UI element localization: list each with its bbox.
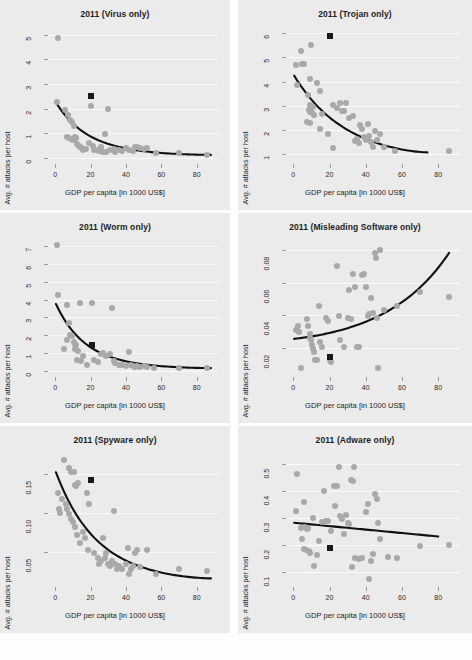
x-axis-label: GDP per capita [in 1000 US$] [0,188,230,197]
y-tick-mark [44,133,48,134]
x-tick-label: 20 [326,171,334,178]
scatter-point [316,303,322,309]
x-tick-mark [197,164,198,168]
scatter-point [446,542,452,548]
x-tick-mark [126,377,127,381]
scatter-point [72,524,78,530]
panel-spyware: 2011 (Spyware only)0.050.100.15020406080… [0,426,230,633]
x-tick-mark [366,377,367,381]
y-tick-mark [282,545,286,546]
panel-title: 2011 (Virus only) [0,9,230,19]
scatter-point [80,353,86,359]
plot-area [48,452,218,587]
scatter-point [366,576,372,582]
scatter-point [392,148,398,154]
y-tick-mark [44,282,48,283]
y-tick-mark [282,154,286,155]
scatter-point [361,271,367,277]
scatter-point [374,137,380,143]
column-spacer [230,0,238,210]
x-tick-label: 60 [398,594,406,601]
y-tick-label: 0.3 [263,523,270,533]
y-tick-mark [282,57,286,58]
scatter-point [343,512,349,518]
x-tick-label: 80 [193,171,201,178]
y-tick-mark [44,35,48,36]
y-tick-label: 0.2 [263,550,270,560]
y-tick-mark [282,348,286,349]
scatter-point [204,152,210,158]
scatter-point [308,42,314,48]
x-axis-label: GDP per capita [in 1000 US$] [238,401,472,410]
scatter-point [176,566,182,572]
x-tick-label: 40 [122,594,130,601]
scatter-point [325,131,331,137]
scatter-point [334,483,340,489]
y-tick-label: 0.08 [263,257,270,271]
y-tick-label: 0.5 [263,469,270,479]
scatter-point [314,80,320,86]
scatter-point [417,289,423,295]
scatter-point [83,146,89,152]
plot-area [286,26,460,164]
scatter-point [310,515,316,521]
scatter-point [107,351,113,357]
x-tick-label: 0 [53,594,57,601]
scatter-point [336,313,342,319]
scatter-point [103,550,109,556]
scatter-point [66,320,72,326]
scatter-point [321,488,327,494]
y-tick-label: 6 [263,35,270,39]
y-tick-label: 6 [25,266,32,270]
x-tick-label: 60 [157,594,165,601]
y-tick-mark [282,572,286,573]
x-tick-label: 0 [291,171,295,178]
x-tick-label: 20 [326,384,334,391]
scatter-point [144,547,150,553]
scatter-point [350,271,356,277]
scatter-point [350,478,356,484]
scatter-point [305,525,311,531]
y-tick-label: 0.4 [263,496,270,506]
scatter-point [341,108,347,114]
figure-panel-grid: 2011 (Virus only)012345020406080Avg. # a… [0,0,472,660]
scatter-point [370,144,376,150]
scatter-point [55,35,61,41]
panel-title: 2011 (Spyware only) [0,435,230,445]
scatter-point [295,323,301,329]
scatter-point [356,344,362,350]
x-tick-mark [438,164,439,168]
scatter-point [370,551,376,557]
plot-area [48,26,218,164]
y-tick-label: 5 [25,37,32,41]
highlight-square-marker [327,354,333,360]
panel-virus: 2011 (Virus only)012345020406080Avg. # a… [0,0,230,210]
scatter-point [337,337,343,343]
y-tick-label: 0 [25,160,32,164]
scatter-point [71,123,77,129]
x-tick-label: 0 [291,384,295,391]
y-tick-label: 5 [263,59,270,63]
scatter-point [109,305,115,311]
y-tick-label: 3 [263,108,270,112]
scatter-point [328,528,334,534]
scatter-point [341,344,347,350]
scatter-point [305,92,311,98]
scatter-point [105,106,111,112]
y-tick-label: 3 [25,86,32,90]
x-tick-mark [366,587,367,591]
scatter-point [55,292,61,298]
scatter-point [61,346,67,352]
panel-adware: 2011 (Adware only)0.10.20.30.40.50204060… [238,426,472,633]
scatter-point [359,126,365,132]
plot-area [48,239,218,377]
x-tick-label: 80 [434,171,442,178]
x-tick-label: 20 [87,384,95,391]
scatter-point [351,464,357,470]
scatter-point [204,568,210,574]
y-tick-mark [282,491,286,492]
scatter-point [144,364,150,370]
panel-title: 2011 (Worm only) [0,222,230,232]
scatter-point [334,263,340,269]
scatter-point [85,547,91,553]
